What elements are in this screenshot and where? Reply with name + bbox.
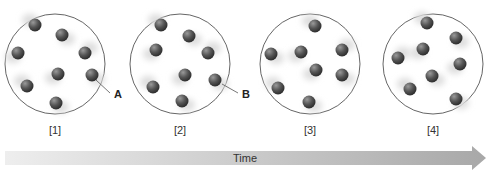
panel-label: [2] (174, 124, 186, 136)
molecule (450, 32, 463, 45)
molecule (176, 95, 189, 108)
molecule (12, 47, 25, 60)
time-arrow: Time (5, 146, 486, 170)
molecule (295, 46, 308, 59)
molecule (50, 97, 63, 110)
molecule (421, 17, 434, 30)
molecule (404, 83, 417, 96)
molecule (183, 30, 196, 43)
panel-label: [1] (49, 124, 61, 136)
molecule (150, 44, 163, 57)
molecule (303, 96, 316, 109)
molecule (336, 44, 349, 57)
molecule (179, 69, 192, 82)
molecule (147, 81, 160, 94)
molecule (202, 47, 215, 60)
panel-label: [4] (427, 124, 439, 136)
molecule (310, 64, 323, 77)
molecule (336, 69, 349, 82)
molecule (79, 47, 92, 60)
panel-1: A[1] (5, 14, 122, 136)
molecule (417, 43, 430, 56)
panels: A[1]B[2][3][4] (5, 12, 483, 136)
molecule (272, 82, 285, 95)
molecule (454, 58, 467, 71)
molecule (392, 52, 405, 65)
time-label: Time (233, 152, 257, 164)
molecule (29, 19, 42, 32)
molecule (155, 19, 168, 32)
diffusion-diagram: A[1]B[2][3][4] Time (0, 0, 492, 178)
molecule (86, 69, 99, 82)
molecule (209, 74, 222, 87)
molecule (426, 70, 439, 83)
molecule (21, 80, 34, 93)
callout-label: A (114, 88, 122, 100)
molecule (265, 48, 278, 61)
molecule (56, 29, 69, 42)
molecule (309, 20, 322, 33)
panel-4: [4] (383, 12, 483, 136)
molecule (450, 93, 463, 106)
callout-label: B (242, 88, 250, 100)
panel-label: [3] (304, 124, 316, 136)
molecule (52, 68, 65, 81)
panel-3: [3] (260, 14, 360, 136)
panel-2: B[2] (130, 14, 250, 136)
